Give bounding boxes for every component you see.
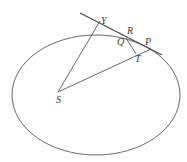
label-Q: Q: [117, 36, 125, 47]
orbit-diagram: Y R Q P T S: [0, 0, 187, 162]
label-R: R: [126, 25, 133, 36]
label-S: S: [56, 94, 61, 105]
label-Y: Y: [101, 15, 108, 26]
label-P: P: [144, 36, 151, 47]
orbit-ellipse: [12, 35, 180, 155]
label-T: T: [135, 53, 142, 64]
segment-SY: [58, 21, 100, 92]
